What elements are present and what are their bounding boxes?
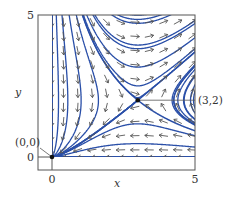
phase-portrait-figure: 5 0 0 5 x y (0,0) (3,2) — [0, 0, 229, 200]
phase-portrait-svg: 5 0 0 5 x y (0,0) (3,2) — [0, 0, 229, 200]
axis-labels: 5 0 0 5 x y (0,0) (3,2) — [14, 9, 223, 190]
y-tick-0: 0 — [27, 151, 34, 164]
x-tick-5: 5 — [192, 173, 199, 186]
y-axis-label: y — [14, 86, 22, 99]
equilibrium-saddle-label: (3,2) — [198, 94, 223, 106]
y-tick-5: 5 — [27, 9, 34, 22]
x-tick-0: 0 — [49, 173, 56, 186]
saddle-point — [136, 98, 141, 103]
origin-point — [50, 155, 55, 160]
x-axis-label: x — [114, 177, 121, 190]
equilibrium-origin-label: (0,0) — [15, 136, 40, 148]
streamlines — [52, 6, 204, 157]
